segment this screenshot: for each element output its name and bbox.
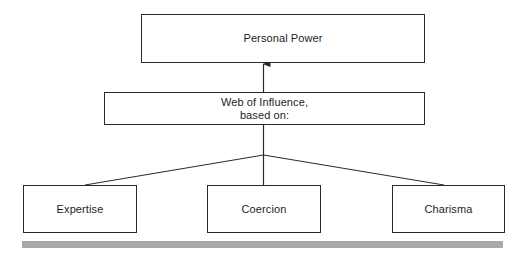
charisma-box: Charisma [392, 185, 505, 233]
connector-charisma [264, 155, 445, 185]
coercion-box: Coercion [207, 185, 321, 233]
expertise-label: Expertise [57, 203, 104, 216]
web-of-influence-box: Web of Influence, based on: [104, 92, 425, 125]
connector-expertise [85, 155, 264, 185]
personal-power-box: Personal Power [141, 14, 425, 63]
web-of-influence-label: Web of Influence, based on: [221, 96, 308, 122]
bottom-divider-bar [22, 241, 503, 248]
coercion-label: Coercion [242, 203, 287, 216]
charisma-label: Charisma [425, 203, 473, 216]
personal-power-label: Personal Power [243, 32, 322, 45]
expertise-box: Expertise [23, 185, 137, 233]
